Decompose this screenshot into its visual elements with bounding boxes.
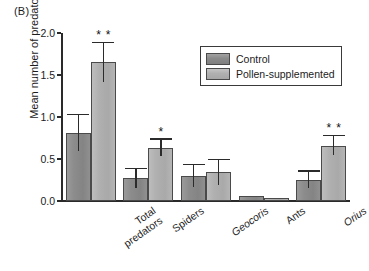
bar-rect	[91, 62, 116, 201]
error-bar	[308, 172, 309, 189]
y-tick-mark	[57, 32, 61, 34]
y-tick-label: 0.0	[15, 195, 55, 207]
y-tick-label: 1.5	[15, 69, 55, 81]
y-tick-label: 0.5	[15, 153, 55, 165]
legend-label-control: Control	[236, 53, 270, 65]
significance-marker: **	[91, 31, 115, 39]
error-bar-cap-upper	[208, 159, 230, 160]
bar-group: *	[123, 33, 173, 201]
legend-item-pollen-supplemented: Pollen-supplemented	[206, 66, 335, 81]
y-tick-label: 2.0	[15, 27, 55, 39]
y-tick-mark	[57, 74, 61, 76]
bar-group: **	[66, 33, 116, 201]
y-tick-mark	[57, 116, 61, 118]
legend-item-control: Control	[206, 51, 335, 66]
error-bar-cap-upper	[183, 164, 205, 165]
error-bar-cap-upper	[125, 168, 147, 169]
legend-swatch-control	[206, 53, 230, 65]
error-bar-cap-upper	[67, 114, 89, 115]
legend: Control Pollen-supplemented	[200, 46, 342, 86]
error-bar	[160, 140, 161, 157]
x-tick-label: Orius	[342, 205, 369, 229]
x-tick-label: Totalpredators	[115, 205, 165, 249]
error-bar	[218, 160, 219, 185]
legend-swatch-pollen-supplemented	[206, 68, 230, 80]
panel-label: (B)	[14, 5, 29, 17]
error-bar	[103, 43, 104, 82]
error-bar	[193, 165, 194, 187]
significance-marker: **	[322, 124, 346, 132]
y-tick-mark	[57, 200, 61, 202]
bar-rect	[264, 198, 289, 201]
x-tick-label: Geocoris	[230, 205, 271, 239]
error-bar	[333, 136, 334, 154]
y-tick-label: 1.0	[15, 111, 55, 123]
x-tick-label: Spiders	[171, 205, 207, 235]
error-bar-cap-upper	[298, 170, 320, 171]
error-bar	[78, 115, 79, 150]
significance-marker: *	[154, 128, 169, 136]
bar-rect	[239, 196, 264, 201]
error-bar	[135, 169, 136, 187]
y-tick-mark	[57, 158, 61, 160]
legend-label-pollen-supplemented: Pollen-supplemented	[236, 68, 335, 80]
x-tick-label: Ants	[283, 205, 307, 226]
